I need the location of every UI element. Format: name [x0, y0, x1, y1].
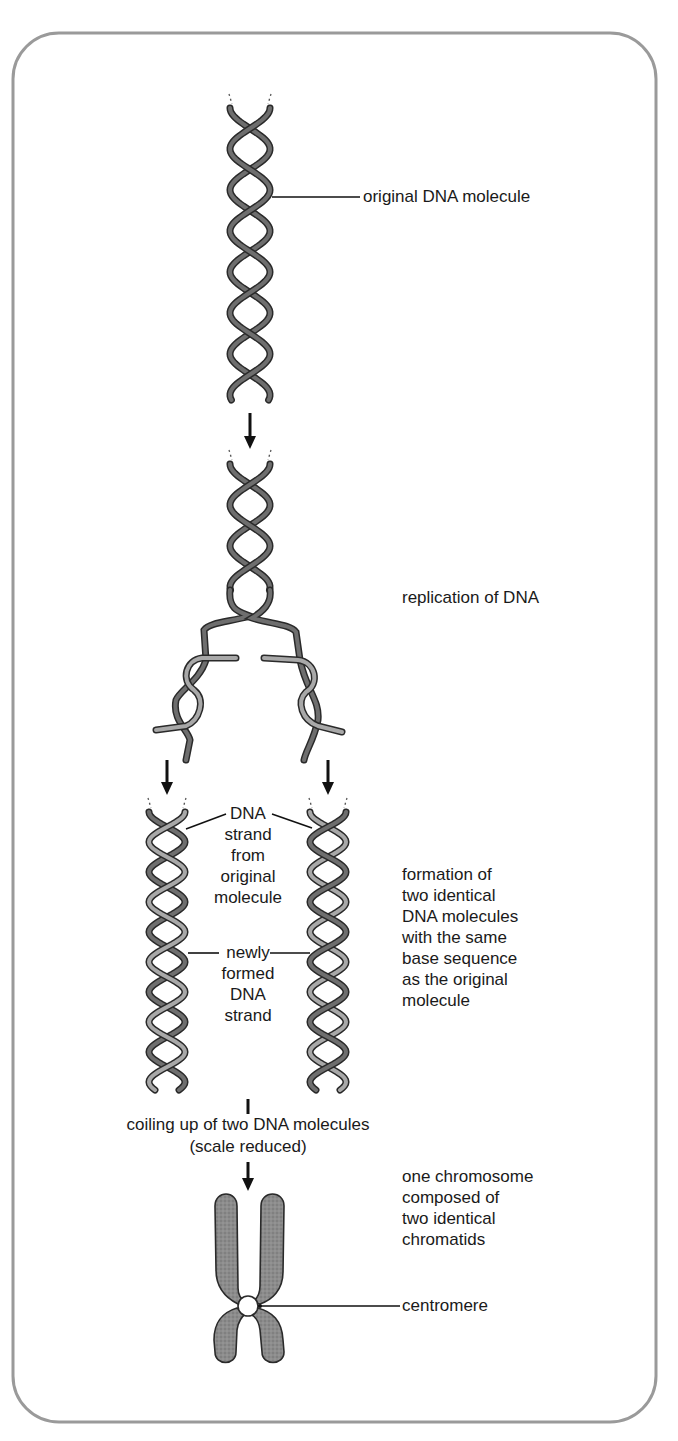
chromatid-arm-bottom-right	[250, 1308, 284, 1363]
dna-diagram	[0, 0, 678, 1441]
centromere-pointer-dot	[258, 1304, 262, 1308]
chromosome	[214, 1194, 284, 1363]
replicating-dna-helix	[156, 450, 342, 760]
original-dna-helix	[229, 94, 271, 400]
label-centromere: centromere	[402, 1295, 488, 1316]
chromatid-arm-top-right	[252, 1194, 284, 1304]
label-scale-reduced: (scale reduced)	[90, 1136, 406, 1157]
arrow-down-icon	[161, 760, 173, 795]
daughter-dna-helix-right	[309, 798, 347, 1090]
chromatid-arm-bottom-left	[214, 1308, 246, 1363]
label-two-identical-molecules: formation of two identical DNA molecules…	[402, 864, 518, 1011]
centromere	[238, 1296, 258, 1316]
callout-original-strand: DNA strand from original molecule	[198, 803, 298, 908]
callout-new-strand: newly formed DNA strand	[198, 942, 298, 1026]
label-replication: replication of DNA	[402, 587, 539, 608]
daughter-dna-helix-left	[148, 798, 186, 1090]
arrow-down-icon	[244, 413, 256, 449]
arrow-down-icon	[242, 1162, 254, 1191]
label-original-dna: original DNA molecule	[363, 186, 530, 207]
chromatid-arm-top-left	[215, 1194, 246, 1304]
arrow-down-icon	[322, 760, 334, 795]
label-chromosome: one chromosome composed of two identical…	[402, 1166, 533, 1250]
label-coiling: coiling up of two DNA molecules	[90, 1114, 406, 1135]
